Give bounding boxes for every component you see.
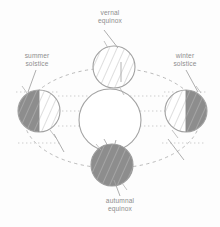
vernal-equinox-earth (93, 46, 135, 88)
label-vernal-equinox-line2: equinox (80, 17, 140, 25)
seasons-diagram-canvas (0, 0, 220, 227)
label-autumnal-equinox-line1: autumnal (88, 197, 152, 205)
label-vernal-equinox: vernal equinox (80, 9, 140, 26)
label-summer-solstice: summer solstice (8, 52, 66, 69)
winter-solstice-earth (165, 90, 207, 132)
label-winter-solstice: winter solstice (156, 52, 214, 69)
label-autumnal-equinox-line2: equinox (88, 205, 152, 213)
label-winter-solstice-line1: winter (156, 52, 214, 60)
label-summer-solstice-line1: summer (8, 52, 66, 60)
sun-circle (79, 89, 141, 152)
summer-solstice-earth (18, 90, 60, 132)
label-autumnal-equinox: autumnal equinox (88, 197, 152, 214)
label-vernal-equinox-line1: vernal (80, 9, 140, 17)
autumnal-equinox-earth (91, 144, 133, 186)
label-winter-solstice-line2: solstice (156, 60, 214, 68)
seasons-diagram: vernal equinox summer solstice winter so… (0, 0, 220, 227)
label-summer-solstice-line2: solstice (8, 60, 66, 68)
